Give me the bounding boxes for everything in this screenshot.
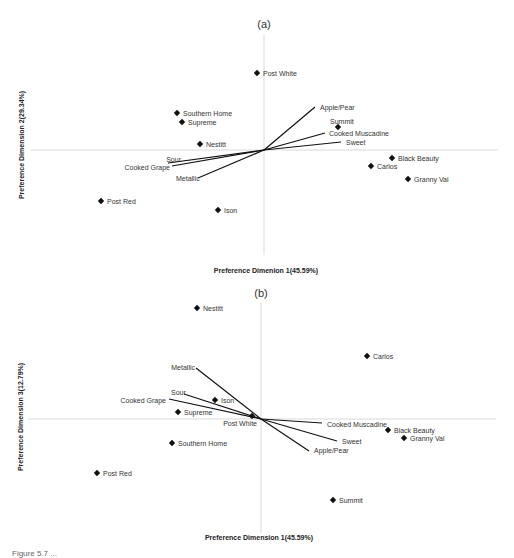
vector-label: Cooked Muscadine: [329, 130, 389, 137]
data-point-label: Nestitt: [203, 305, 223, 312]
panel-b-axes: [28, 303, 496, 533]
panel-a-biplot: (a) Apple/PearCooked MuscadineSweetSourC…: [18, 18, 498, 275]
attribute-vector: [264, 133, 325, 150]
attribute-vector: [264, 142, 341, 150]
data-point-label: Ison: [221, 397, 234, 404]
data-point-label: Carlos: [377, 163, 398, 170]
vector-label: Cooked Grape: [124, 164, 170, 172]
diamond-marker-icon: [212, 397, 218, 403]
data-point-label: Black Beauty: [394, 427, 435, 435]
diamond-marker-icon: [179, 119, 185, 125]
data-point-label: Southern Home: [178, 440, 227, 447]
vector-label: Apple/Pear: [320, 104, 355, 112]
data-point-label: Granny Val: [410, 435, 445, 443]
attribute-vector: [261, 419, 337, 441]
panel-b-biplot: (b) MetallicSourCooked GrapeCooked Musca…: [17, 287, 496, 542]
vector-label: Metallic: [171, 364, 195, 371]
vector-label: Sweet: [346, 139, 366, 146]
vector-label: Metallic: [176, 175, 200, 182]
panel-b-title: (b): [254, 287, 267, 299]
panel-b-points: NestittCarlosIsonSupremePost WhiteBlack …: [94, 305, 445, 504]
diamond-marker-icon: [169, 440, 175, 446]
panel-b-y-axis-label: Preference Dimension 3(12.79%): [17, 363, 25, 471]
diamond-marker-icon: [194, 305, 200, 311]
panel-b-x-axis-label: Preference Dimension 1(45.59%): [205, 534, 313, 542]
attribute-vector: [172, 150, 264, 166]
data-point-label: Summit: [339, 497, 363, 504]
diamond-marker-icon: [364, 353, 370, 359]
vector-label: Sweet: [342, 438, 362, 445]
panel-a-x-axis-label: Preference Dimenion 1(45.59%): [214, 267, 318, 275]
data-point-label: Summit: [330, 118, 354, 125]
data-point-label: Post White: [223, 420, 257, 427]
data-point-label: Post Red: [103, 470, 132, 477]
diamond-marker-icon: [405, 176, 411, 182]
attribute-vector: [261, 419, 309, 451]
panel-a-title: (a): [257, 18, 270, 30]
attribute-vector: [264, 107, 315, 150]
vector-label: Sour: [171, 389, 186, 396]
data-point-label: Carlos: [373, 353, 394, 360]
vector-label: Cooked Muscadine: [327, 421, 387, 428]
data-point-label: Granny Val: [414, 176, 449, 184]
panel-a-y-axis-label: Preference Dimension 2(29.34%): [18, 91, 26, 199]
vector-label: Apple/Pear: [314, 447, 349, 455]
figure-caption: Figure 5.7 ...: [12, 549, 57, 558]
attribute-vector: [261, 419, 322, 423]
vector-label: Sour: [166, 156, 181, 163]
data-point-label: Black Beauty: [398, 155, 439, 163]
diamond-marker-icon: [174, 110, 180, 116]
data-point-label: Nestitt: [206, 141, 226, 148]
data-point-label: Post White: [263, 70, 297, 77]
diamond-marker-icon: [254, 70, 260, 76]
diamond-marker-icon: [94, 470, 100, 476]
panel-a-vectors: Apple/PearCooked MuscadineSweetSourCooke…: [124, 104, 389, 182]
diamond-marker-icon: [175, 409, 181, 415]
data-point-label: Post Red: [107, 198, 136, 205]
diamond-marker-icon: [197, 141, 203, 147]
diamond-marker-icon: [215, 207, 221, 213]
diamond-marker-icon: [401, 435, 407, 441]
diamond-marker-icon: [98, 198, 104, 204]
data-point-label: Ison: [224, 207, 237, 214]
data-point-label: Supreme: [184, 409, 213, 417]
diamond-marker-icon: [368, 163, 374, 169]
panel-a-axes: [31, 35, 498, 255]
data-point-label: Supreme: [188, 119, 217, 127]
vector-label: Cooked Grape: [120, 397, 166, 405]
diamond-marker-icon: [330, 497, 336, 503]
panel-b-vectors: MetallicSourCooked GrapeCooked Muscadine…: [120, 364, 387, 455]
diamond-marker-icon: [389, 155, 395, 161]
data-point-label: Southern Home: [183, 110, 232, 117]
